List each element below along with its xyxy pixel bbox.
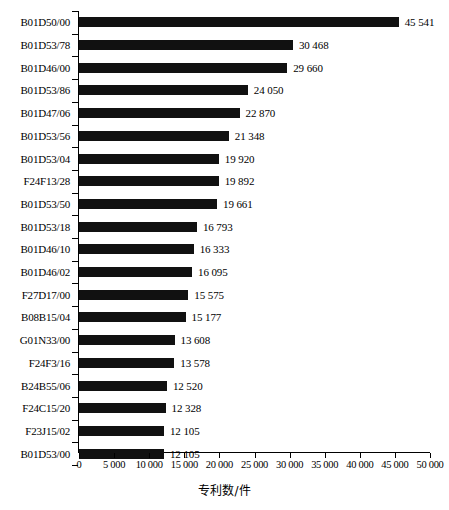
bar-category-label: B01D50/00 xyxy=(20,16,70,28)
x-axis-tick-label: 15 000 xyxy=(171,459,198,470)
x-axis-tick-label: 30 000 xyxy=(276,459,303,470)
bar-value-label: 16 793 xyxy=(203,221,233,233)
bar xyxy=(79,63,287,73)
x-axis-tick-label: 35 000 xyxy=(311,459,338,470)
bar-value-label: 29 660 xyxy=(293,62,323,74)
bar xyxy=(79,17,399,27)
bar-value-label: 13 608 xyxy=(181,334,211,346)
bar xyxy=(79,40,293,50)
bar-row: F23J15/0212 105 xyxy=(0,420,449,443)
bar-row: B01D53/0419 920 xyxy=(0,147,449,170)
bar-value-label: 19 892 xyxy=(225,175,255,187)
bar-row: B01D53/7830 468 xyxy=(0,34,449,57)
bar-row: F24C15/2012 328 xyxy=(0,397,449,420)
bar-category-label: B01D53/04 xyxy=(20,153,70,165)
bar-value-label: 19 661 xyxy=(223,198,253,210)
bar-value-label: 16 095 xyxy=(198,266,228,278)
bar-value-label: 30 468 xyxy=(299,39,329,51)
bar-category-label: B01D46/00 xyxy=(20,62,70,74)
bar-value-label: 16 333 xyxy=(200,243,230,255)
bar xyxy=(79,199,217,209)
x-axis-tick-label: 45 000 xyxy=(381,459,408,470)
bar-row: B01D53/5019 661 xyxy=(0,193,449,216)
x-axis-tick xyxy=(290,453,291,458)
bar-chart: B01D50/0045 541B01D53/7830 468B01D46/002… xyxy=(0,0,449,510)
bar xyxy=(79,176,219,186)
bar xyxy=(79,244,194,254)
bar-category-label: B01D53/86 xyxy=(20,84,70,96)
bar-category-label: B01D53/00 xyxy=(20,448,70,460)
bar-category-label: B01D53/56 xyxy=(20,130,70,142)
bar-row: F24F13/2819 892 xyxy=(0,170,449,193)
bar-value-label: 15 177 xyxy=(192,311,222,323)
x-axis-tick-label: 25 000 xyxy=(241,459,268,470)
bar-value-label: 21 348 xyxy=(235,130,265,142)
bar xyxy=(79,426,164,436)
bar-category-label: F27D17/00 xyxy=(22,289,70,301)
x-axis-tick xyxy=(79,453,80,458)
bar-row: B01D50/0045 541 xyxy=(0,11,449,34)
bar-row: B01D47/0622 870 xyxy=(0,102,449,125)
bar-category-label: B01D46/02 xyxy=(20,266,70,278)
bar-category-label: B01D53/78 xyxy=(20,39,70,51)
bar-category-label: B01D46/10 xyxy=(20,243,70,255)
bar-value-label: 12 105 xyxy=(170,425,200,437)
bar xyxy=(79,358,174,368)
bar-value-label: 19 920 xyxy=(225,153,255,165)
x-axis-tick-label: 50 000 xyxy=(416,459,443,470)
bar xyxy=(79,108,240,118)
bar-category-label: F24F3/16 xyxy=(29,357,70,369)
x-axis-tick-label: 0 xyxy=(77,459,82,470)
bar-value-label: 22 870 xyxy=(246,107,276,119)
x-axis-tick xyxy=(184,453,185,458)
bar-row: G01N33/0013 608 xyxy=(0,329,449,352)
bar xyxy=(79,335,175,345)
bar-category-label: G01N33/00 xyxy=(20,334,70,346)
bar-category-label: B01D53/50 xyxy=(20,198,70,210)
x-axis-tick-label: 5 000 xyxy=(103,459,125,470)
bar-row: B24B55/0612 520 xyxy=(0,374,449,397)
bar-row: B01D53/5621 348 xyxy=(0,125,449,148)
bar xyxy=(79,267,192,277)
bar-category-label: B01D53/18 xyxy=(20,221,70,233)
bar-row: F24F3/1613 578 xyxy=(0,352,449,375)
bar xyxy=(79,290,188,300)
x-axis-tick xyxy=(114,453,115,458)
bar-row: B01D46/0029 660 xyxy=(0,56,449,79)
bar xyxy=(79,154,219,164)
bar-category-label: F23J15/02 xyxy=(25,425,70,437)
x-axis-tick xyxy=(255,453,256,458)
bar-category-label: B08B15/04 xyxy=(21,311,70,323)
bar xyxy=(79,85,248,95)
bar-category-label: B01D47/06 xyxy=(20,107,70,119)
x-axis-tick xyxy=(219,453,220,458)
bar xyxy=(79,381,167,391)
bar-category-label: F24C15/20 xyxy=(22,402,70,414)
bar-row: B01D53/1816 793 xyxy=(0,215,449,238)
bar xyxy=(79,449,164,459)
bar xyxy=(79,403,166,413)
bar-row: B01D53/8624 050 xyxy=(0,79,449,102)
bar xyxy=(79,222,197,232)
bar xyxy=(79,312,186,322)
bar-value-label: 13 578 xyxy=(180,357,210,369)
x-axis-tick xyxy=(149,453,150,458)
bar-category-label: F24F13/28 xyxy=(24,175,71,187)
x-axis-tick-label: 20 000 xyxy=(206,459,233,470)
bar-value-label: 24 050 xyxy=(254,84,284,96)
bar-row: F27D17/0015 575 xyxy=(0,283,449,306)
x-axis-title: 专利数/件 xyxy=(0,481,449,498)
x-axis-tick xyxy=(360,453,361,458)
bar-row: B01D46/1016 333 xyxy=(0,238,449,261)
x-axis-tick xyxy=(430,453,431,458)
bar-row: B08B15/0415 177 xyxy=(0,306,449,329)
x-axis-tick-label: 10 000 xyxy=(136,459,163,470)
x-axis-tick-label: 40 000 xyxy=(346,459,373,470)
bar-value-label: 15 575 xyxy=(194,289,224,301)
bar-row: B01D46/0216 095 xyxy=(0,261,449,284)
x-axis-tick xyxy=(395,453,396,458)
bar-value-label: 45 541 xyxy=(405,16,435,28)
bar xyxy=(79,131,229,141)
bar-category-label: B24B55/06 xyxy=(21,380,70,392)
x-axis-tick xyxy=(325,453,326,458)
